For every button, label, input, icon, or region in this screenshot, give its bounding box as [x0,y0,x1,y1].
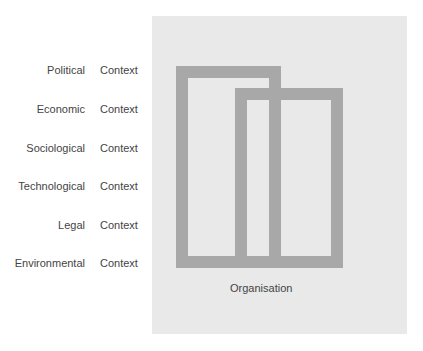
factor-row-political: Political Context [0,64,140,80]
context-label: Context [100,219,138,231]
factor-row-technological: Technological Context [0,180,140,196]
factor-label: Environmental [0,257,85,269]
factor-label: Political [0,64,85,76]
factor-row-environmental: Environmental Context [0,257,140,273]
factor-row-legal: Legal Context [0,219,140,235]
context-label: Context [100,180,138,192]
context-label: Context [100,64,138,76]
factor-row-sociological: Sociological Context [0,142,140,158]
factor-label: Legal [0,219,85,231]
context-label: Context [100,103,138,115]
factor-label: Sociological [0,142,85,154]
factor-row-economic: Economic Context [0,103,140,119]
organisation-label: Organisation [230,282,292,294]
factor-label: Technological [0,180,85,192]
context-label: Context [100,257,138,269]
organisation-frame-right [235,88,343,268]
factor-label: Economic [0,103,85,115]
context-label: Context [100,142,138,154]
